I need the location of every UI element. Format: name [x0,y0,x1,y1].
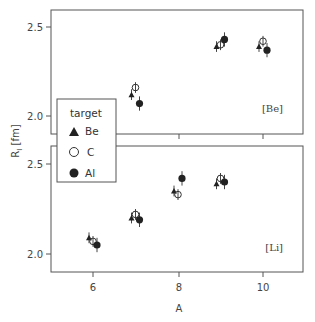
legend-title: target [70,107,102,119]
legend-label-be: Be [85,125,99,137]
tick-label-x-10: 10 [257,282,270,293]
x-axis-label: A [176,303,183,314]
tick-label-y-top-2.0: 2.0 [27,111,43,122]
legend-label-al: Al [85,167,95,179]
data-point-al [221,36,228,43]
tick-label-x-8: 8 [176,282,182,293]
data-point-al [93,241,100,248]
tick-label-x-6: 6 [90,282,96,293]
open-circle-marker-icon [70,148,79,157]
top-panel-tag: [Be] [262,103,283,114]
bottom-panel-tag: [Li] [265,242,283,253]
y-axis-label: RI [fm] [10,124,24,157]
tick-label-y-bot-2.0: 2.0 [27,249,43,260]
chart: 2.5 2.0 2.5 2.0 6 8 10 A RI [fm] [Be] [L… [0,0,315,322]
tick-label-y-top-2.5: 2.5 [27,22,43,33]
tick-label-y-bot-2.5: 2.5 [27,159,43,170]
legend-label-c: C [87,146,94,158]
data-point-al [136,100,143,107]
data-point-al [263,47,270,54]
data-point-al [178,175,185,182]
filled-circle-marker-icon [70,169,79,178]
data-point-al [136,216,143,223]
data-point-al [221,178,228,185]
legend: target Be C Al [57,99,116,182]
